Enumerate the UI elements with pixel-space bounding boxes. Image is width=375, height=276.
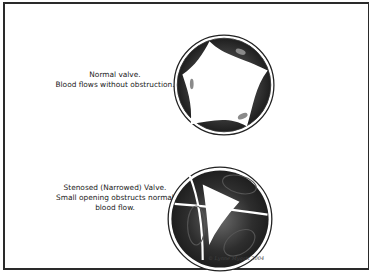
normal-valve-caption-line2: Blood flows without obstruction. xyxy=(40,80,190,90)
normal-valve-caption-line1: Normal valve. xyxy=(40,70,190,80)
artist-signature: © Lynne Mygatt 2004 xyxy=(208,255,264,261)
normal-valve-caption: Normal valve. Blood flows without obstru… xyxy=(40,70,190,90)
normal-valve-illustration xyxy=(172,33,276,137)
